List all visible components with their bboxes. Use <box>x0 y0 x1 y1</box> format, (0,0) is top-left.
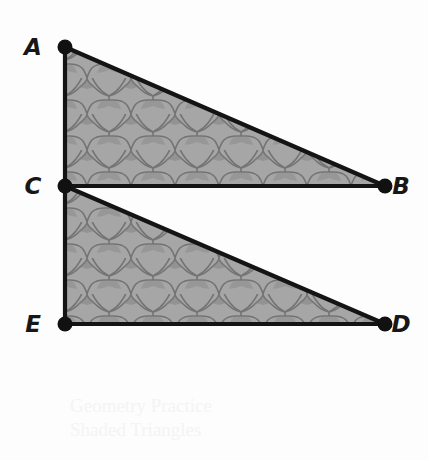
vertex-label-D: D <box>391 311 410 337</box>
vertex-label-A: A <box>22 34 42 60</box>
watermark-line-1: Geometry Practice <box>70 395 212 416</box>
geometry-figure: Geometry Practice Shaded Triangles <box>0 0 428 460</box>
watermark-line-2: Shaded Triangles <box>70 419 201 440</box>
vertex-label-B: B <box>392 173 410 199</box>
vertex-dot-D <box>378 317 393 332</box>
vertex-label-E: E <box>25 311 41 337</box>
vertex-dot-E <box>58 317 73 332</box>
vertex-label-C: C <box>25 173 42 199</box>
vertex-dot-A <box>58 40 73 55</box>
figure-canvas: Geometry Practice Shaded Triangles <box>0 0 428 460</box>
vertex-dot-B <box>378 179 393 194</box>
vertex-dot-C <box>58 179 73 194</box>
